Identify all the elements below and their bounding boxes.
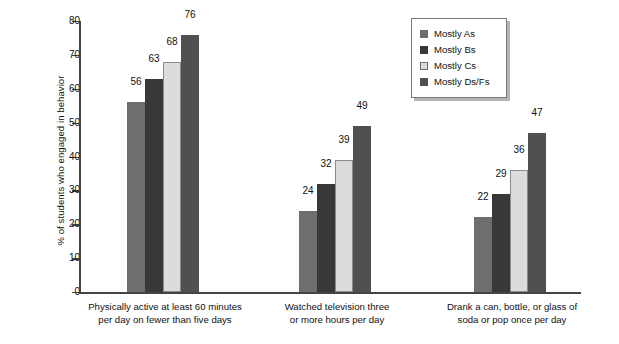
category-label-line: soda or pop once per day	[402, 314, 619, 327]
legend-label: Mostly Bs	[434, 44, 476, 55]
legend-swatch-icon	[420, 46, 428, 54]
bar-value-label: 49	[356, 100, 367, 113]
legend-label: Mostly Ds/Fs	[434, 76, 489, 87]
bar-value-label: 24	[302, 185, 313, 198]
y-axis-tick-label: 40	[26, 151, 80, 162]
bar-value-label: 39	[338, 134, 349, 147]
bar-value-label: 68	[166, 36, 177, 49]
bar	[528, 133, 546, 292]
bar-value-label: 47	[531, 107, 542, 120]
x-axis-line	[79, 292, 581, 294]
bar	[317, 184, 335, 292]
bar-value-label: 22	[477, 191, 488, 204]
category-label: Drank a can, bottle, or glass ofsoda or …	[402, 301, 619, 326]
bar-group: 56636876	[127, 21, 199, 292]
bar	[181, 35, 199, 292]
y-axis-tick-label: 0	[26, 286, 80, 297]
bar	[127, 102, 145, 292]
bar-group: 24323949	[299, 21, 371, 292]
bar-value-label: 36	[513, 144, 524, 157]
bar-chart: % of students who engaged in behavior 01…	[0, 0, 619, 344]
bar	[335, 160, 353, 292]
bar-value-label: 56	[130, 76, 141, 89]
y-axis-tick-label: 50	[26, 117, 80, 128]
chart-legend: Mostly AsMostly BsMostly CsMostly Ds/Fs	[411, 18, 507, 98]
legend-swatch-icon	[420, 30, 428, 38]
y-axis-tick-label: 10	[26, 252, 80, 263]
legend-item: Mostly Ds/Fs	[420, 74, 500, 89]
legend-label: Mostly Cs	[434, 60, 476, 71]
y-axis-tick-label: 60	[26, 83, 80, 94]
y-axis-tick-label: 20	[26, 218, 80, 229]
bar	[299, 211, 317, 292]
y-axis-tick-label: 80	[26, 15, 80, 26]
legend-swatch-icon	[420, 78, 428, 86]
bar	[492, 194, 510, 292]
bar	[163, 62, 181, 292]
legend-item: Mostly As	[420, 26, 500, 41]
bar-value-label: 63	[148, 53, 159, 66]
bar	[145, 79, 163, 292]
bar	[353, 126, 371, 292]
y-axis-tick-label: 30	[26, 184, 80, 195]
bar-value-label: 76	[184, 9, 195, 22]
bar-value-label: 32	[320, 158, 331, 171]
legend-item: Mostly Bs	[420, 42, 500, 57]
bar-value-label: 29	[495, 168, 506, 181]
bar	[474, 217, 492, 292]
category-label-line: Drank a can, bottle, or glass of	[402, 301, 619, 314]
legend-item: Mostly Cs	[420, 58, 500, 73]
bar	[510, 170, 528, 292]
y-axis-tick-label: 70	[26, 49, 80, 60]
legend-label: Mostly As	[434, 28, 475, 39]
legend-swatch-icon	[420, 62, 428, 70]
